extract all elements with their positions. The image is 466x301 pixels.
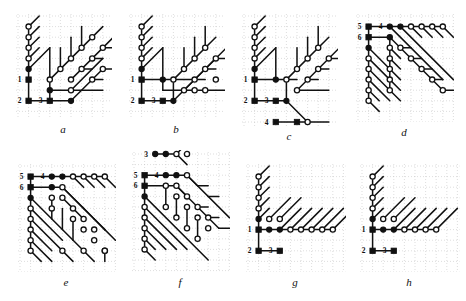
panel-e-node-label-5: 5 [20,172,24,181]
panel-c: 1234 [240,12,338,128]
panel-g-edges [259,166,346,251]
panel-g-canvas: 123 [244,162,346,272]
panel-c-node-label-3: 3 [265,96,269,105]
panel-a-node-label-1: 1 [18,75,22,84]
panel-e-canvas: 546 [16,162,116,272]
panel-caption-e: e [16,277,116,288]
panel-b-node-label-2: 2 [131,96,135,105]
panel-g: 123 [244,162,346,272]
panel-d-node-label-6: 6 [358,33,362,42]
panel-g-node-label-3: 3 [269,246,273,255]
panel-h-node-label-1: 1 [362,225,366,234]
panel-e: 546 [16,162,116,272]
panel-d-node-label-5: 5 [358,22,362,31]
panel-h: 123 [358,162,460,272]
panel-f-grid [132,152,230,272]
panel-e-node-label-4: 4 [41,172,45,181]
panel-f-node-label-3: 3 [144,150,148,159]
panel-f-node-label-5: 5 [134,171,138,180]
panel-caption-h: h [358,277,460,288]
panel-caption-d: d [354,127,454,138]
panel-b-canvas: 123 [127,12,225,117]
panel-caption-a: a [14,124,112,135]
panel-h-canvas: 123 [358,162,460,272]
panel-g-node-label-1: 1 [248,225,252,234]
panel-g-node-label-2: 2 [248,246,252,255]
panel-f: 3546 [130,150,230,272]
panel-d-open-nodes [366,24,445,103]
panel-a-node-label-3: 3 [39,96,43,105]
panel-f-node-label-4: 4 [155,171,159,180]
panel-a-canvas: 123 [14,12,112,117]
panel-d-node-label-4: 4 [379,22,383,31]
panel-a: 123 [14,12,112,117]
panel-c-node-label-2: 2 [244,96,248,105]
panel-caption-f: f [130,277,230,288]
panel-h-node-label-2: 2 [362,246,366,255]
panel-b-node-label-3: 3 [152,96,156,105]
panel-a-node-label-2: 2 [18,96,22,105]
panel-d: 546 [354,12,454,122]
panel-e-node-label-6: 6 [20,183,24,192]
panel-c-node-label-1: 1 [244,75,248,84]
panel-f-node-label-6: 6 [134,181,138,190]
panel-b-open-nodes [139,24,218,93]
panel-caption-g: g [244,277,346,288]
figure-eight-panel-lattice-diagram: 123a123b1234c546d546e3546f123g123h [0,0,466,301]
panel-caption-c: c [240,131,338,142]
panel-c-canvas: 1234 [240,12,338,128]
panel-b: 123 [127,12,225,117]
panel-e-open-nodes [28,174,107,253]
panel-c-node-label-4: 4 [265,118,269,127]
panel-h-node-label-3: 3 [383,246,387,255]
panel-b-node-label-1: 1 [131,75,135,84]
panel-caption-b: b [127,124,225,135]
panel-a-open-nodes [26,24,105,93]
panel-f-canvas: 3546 [130,150,230,272]
panel-d-canvas: 546 [354,12,454,122]
